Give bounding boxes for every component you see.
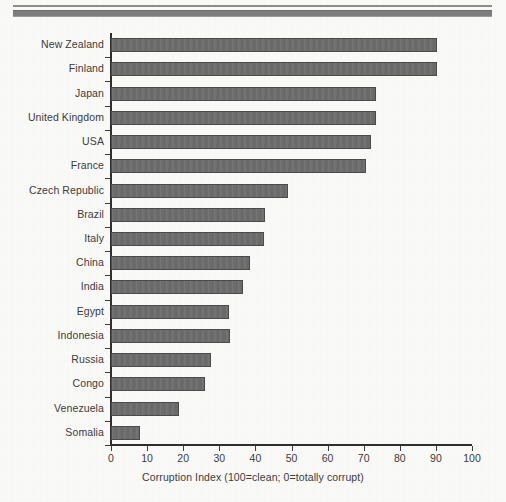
bar	[111, 184, 288, 198]
bar	[111, 280, 243, 294]
category-label: United Kingdom	[3, 111, 104, 123]
bar	[111, 159, 366, 173]
bar	[111, 426, 140, 440]
x-axis-tick	[111, 446, 112, 451]
category-axis-labels: New ZealandFinlandJapanUnited KingdomUSA…	[0, 33, 104, 445]
y-axis-tick	[105, 275, 111, 276]
top-rule-thick-divider	[13, 10, 492, 17]
x-axis-tick-label: 80	[380, 452, 420, 464]
category-label: USA	[3, 135, 104, 147]
category-label: Russia	[3, 353, 104, 365]
x-axis-tick	[364, 446, 365, 451]
y-axis-tick	[105, 57, 111, 58]
category-label: Czech Republic	[3, 184, 104, 196]
bar	[111, 305, 229, 319]
category-label: Finland	[3, 62, 104, 74]
y-axis-tick	[105, 324, 111, 325]
category-label: Egypt	[3, 305, 104, 317]
x-axis-tick-label: 70	[344, 452, 384, 464]
bar	[111, 208, 265, 222]
bar	[111, 232, 264, 246]
category-label: Somalia	[3, 426, 104, 438]
plot-area	[111, 33, 472, 445]
x-axis-tick	[400, 446, 401, 451]
x-axis-title: Corruption Index (100=clean; 0=totally c…	[0, 471, 506, 483]
x-axis-tick	[219, 446, 220, 451]
bar	[111, 87, 376, 101]
bar	[111, 135, 371, 149]
x-axis-tick	[183, 446, 184, 451]
x-axis-tick-label: 100	[452, 452, 492, 464]
x-axis-tick	[436, 446, 437, 451]
x-axis-tick	[328, 446, 329, 451]
y-axis-tick	[105, 130, 111, 131]
y-axis-tick	[105, 81, 111, 82]
bar	[111, 111, 376, 125]
category-label: India	[3, 280, 104, 292]
category-label: China	[3, 256, 104, 268]
y-axis-tick	[105, 397, 111, 398]
y-axis-tick	[105, 106, 111, 107]
x-axis-tick-label: 0	[91, 452, 131, 464]
category-label: Brazil	[3, 208, 104, 220]
bar	[111, 353, 211, 367]
x-axis-tick-label: 40	[235, 452, 275, 464]
y-axis-tick	[105, 421, 111, 422]
bar	[111, 256, 250, 270]
x-axis-tick	[147, 446, 148, 451]
category-label: Japan	[3, 87, 104, 99]
y-axis-tick	[105, 372, 111, 373]
x-axis-tick	[292, 446, 293, 451]
y-axis-tick	[105, 227, 111, 228]
category-label: New Zealand	[3, 38, 104, 50]
category-label: Congo	[3, 377, 104, 389]
y-axis-tick	[105, 178, 111, 179]
y-axis-tick	[105, 203, 111, 204]
category-label: France	[3, 159, 104, 171]
bar	[111, 402, 179, 416]
y-axis-tick	[105, 251, 111, 252]
x-axis-tick-label: 50	[272, 452, 312, 464]
x-axis-tick-label: 90	[416, 452, 456, 464]
x-axis-tick-label: 30	[199, 452, 239, 464]
category-label: Venezuela	[3, 402, 104, 414]
bar	[111, 62, 437, 76]
x-axis-tick-label: 20	[163, 452, 203, 464]
x-axis-tick	[255, 446, 256, 451]
chart-figure: New ZealandFinlandJapanUnited KingdomUSA…	[0, 0, 506, 502]
category-label: Italy	[3, 232, 104, 244]
x-axis-tick	[472, 446, 473, 451]
y-axis-tick	[105, 348, 111, 349]
bar	[111, 329, 230, 343]
top-rule-thin-divider	[13, 5, 492, 7]
bar	[111, 377, 205, 391]
x-axis-tick-label: 10	[127, 452, 167, 464]
category-label: Indonesia	[3, 329, 104, 341]
bar	[111, 38, 437, 52]
y-axis-tick	[105, 300, 111, 301]
y-axis-tick	[105, 154, 111, 155]
x-axis-tick-label: 60	[308, 452, 348, 464]
